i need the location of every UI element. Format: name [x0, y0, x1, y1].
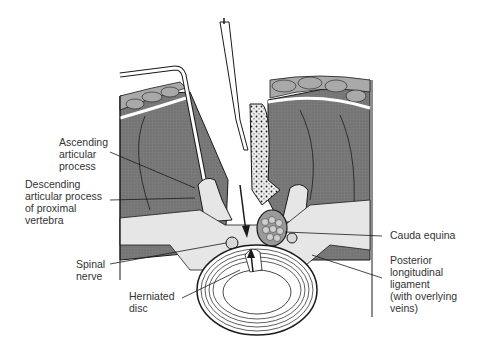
label-cauda-equina: Cauda equina — [390, 229, 455, 241]
label-descending-articular-process: Descending articular process of proximal… — [25, 178, 102, 226]
intervertebral-disc — [197, 245, 317, 335]
cauda-equina-sac — [257, 210, 287, 246]
label-posterior-longitudinal-ligament: Posterior longitudinal ligament (with ov… — [390, 254, 457, 314]
label-ascending-articular-process: Ascending articular process — [59, 136, 108, 172]
label-herniated-disc: Herniated disc — [129, 290, 175, 314]
surgical-instrument — [220, 18, 248, 150]
spinal-nerve-right — [287, 233, 297, 243]
label-spinal-nerve: Spinal nerve — [76, 258, 105, 282]
